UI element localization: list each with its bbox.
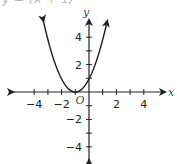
y-axis-label: y (82, 6, 90, 19)
x-tick-label: 4 (140, 98, 147, 111)
x-tick-label: 2 (113, 98, 120, 111)
y-tick-label: −4 (66, 141, 82, 154)
y-tick-label: 2 (75, 59, 82, 72)
y-tick-label: 4 (75, 31, 82, 44)
x-axis-label: x (168, 86, 175, 99)
x-tick-label: −4 (26, 98, 42, 111)
x-tick-label: −2 (53, 98, 69, 111)
y-tick-label: −2 (66, 113, 82, 126)
origin-label: O (75, 94, 84, 107)
parabola-graph: −4 −2 2 4 4 2 −2 −4 x y O (0, 0, 177, 164)
